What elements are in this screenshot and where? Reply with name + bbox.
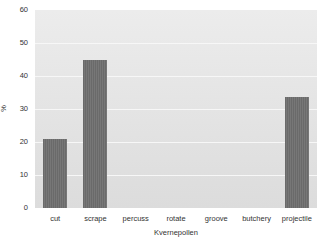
y-tick-label: 40 (10, 71, 28, 80)
y-tick-label: 50 (10, 38, 28, 47)
y-axis-title: % (0, 105, 8, 112)
x-axis-title: Kvernepollen (35, 228, 317, 237)
gridline (35, 142, 317, 143)
x-tick-label: projectile (277, 214, 317, 223)
y-tick-label: 60 (10, 5, 28, 14)
x-tick-label: groove (196, 214, 236, 223)
plot-area (35, 10, 317, 208)
y-tick-label: 20 (10, 137, 28, 146)
bar-projectile (285, 97, 309, 208)
gridline (35, 76, 317, 77)
x-tick-label: scrape (75, 214, 115, 223)
x-tick-label: percuss (116, 214, 156, 223)
gridline (35, 43, 317, 44)
x-tick-label: cut (35, 214, 75, 223)
bar-cut (43, 139, 67, 208)
y-tick-label: 10 (10, 170, 28, 179)
bar-scrape (83, 60, 107, 209)
x-tick-label: rotate (156, 214, 196, 223)
y-tick-label: 0 (10, 203, 28, 212)
x-tick-label: butchery (237, 214, 277, 223)
gridline (35, 109, 317, 110)
y-tick-label: 30 (10, 104, 28, 113)
bar-chart: Kvernepollen % 0102030405060cutscrapeper… (0, 0, 319, 241)
gridline (35, 175, 317, 176)
